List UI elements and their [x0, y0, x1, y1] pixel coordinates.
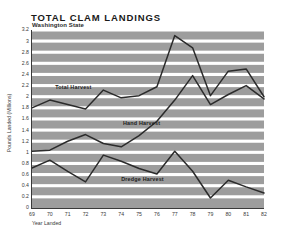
series-label: Dredge Harvest [121, 176, 164, 182]
x-tick-label: 81 [243, 211, 249, 217]
y-tick-label: 1.2 [22, 139, 29, 144]
y-axis-title: Pounds Landed (Millions) [6, 78, 12, 168]
y-tick-label: 0.2 [22, 194, 29, 199]
y-tick-label: 1.8 [22, 105, 29, 110]
series-label: Total Harvest [55, 84, 91, 90]
x-tick-label: 75 [136, 211, 142, 217]
y-tick-label: 0 [26, 205, 29, 210]
x-tick-label: 80 [225, 211, 231, 217]
x-tick-label: 76 [154, 211, 160, 217]
x-tick-label: 69 [29, 211, 35, 217]
y-tick-label: 2 [26, 94, 29, 99]
y-tick-label: 2.8 [22, 50, 29, 55]
chart-subtitle: Washington State [32, 22, 84, 28]
x-axis-line [31, 208, 264, 209]
y-tick-label: 2.4 [22, 72, 29, 77]
y-tick-label: 2.2 [22, 83, 29, 88]
x-tick-label: 79 [208, 211, 214, 217]
y-axis-tick-labels: 00.20.40.60.811.21.41.61.822.22.42.62.83… [0, 0, 29, 245]
y-tick-label: 1 [26, 150, 29, 155]
y-tick-label: 1.4 [22, 128, 29, 133]
x-tick-label: 82 [261, 211, 267, 217]
x-tick-label: 78 [190, 211, 196, 217]
y-tick-label: 3.2 [22, 27, 29, 32]
x-tick-label: 72 [83, 211, 89, 217]
y-tick-label: 0.4 [22, 183, 29, 188]
y-axis-line [31, 30, 32, 209]
y-tick-label: 2.6 [22, 61, 29, 66]
y-tick-label: 3 [26, 39, 29, 44]
series-label: Hand Harvest [123, 120, 160, 126]
y-tick-label: 0.6 [22, 172, 29, 177]
x-tick-label: 74 [118, 211, 124, 217]
x-tick-label: 70 [47, 211, 53, 217]
x-tick-label: 71 [65, 211, 71, 217]
y-tick-label: 0.8 [22, 161, 29, 166]
x-tick-label: 77 [172, 211, 178, 217]
chart-page: TOTAL CLAM LANDINGS Washington State 00.… [0, 0, 294, 245]
x-axis-title: Year Landed [32, 220, 61, 226]
y-tick-label: 1.6 [22, 116, 29, 121]
x-tick-label: 73 [100, 211, 106, 217]
